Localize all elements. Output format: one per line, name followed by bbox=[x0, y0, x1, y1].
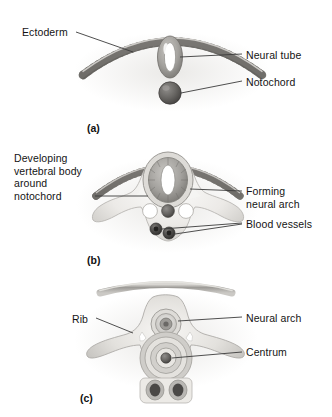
label-forming-neural-arch: Forming neural arch bbox=[246, 185, 300, 210]
panel-caption-c: (c) bbox=[80, 392, 93, 404]
panel-c-artwork bbox=[74, 282, 258, 403]
panel-caption-a: (a) bbox=[87, 122, 100, 134]
label-neural-tube: Neural tube bbox=[246, 49, 301, 62]
label-neural-arch: Neural arch bbox=[246, 312, 301, 325]
panel-b-artwork bbox=[76, 152, 260, 253]
panel-a-artwork bbox=[74, 32, 270, 112]
label-developing-vertebral-body: Developing vertebral body around notocho… bbox=[14, 152, 82, 202]
centrum-structure bbox=[140, 332, 192, 384]
label-centrum: Centrum bbox=[246, 346, 287, 359]
figure-panel-group: Ectoderm Neural tube Notochord Developin… bbox=[0, 0, 332, 417]
notochord-and-foramina bbox=[143, 204, 194, 219]
label-notochord: Notochord bbox=[246, 76, 295, 89]
label-blood-vessels: Blood vessels bbox=[246, 218, 312, 231]
forming-neural-arch-structure bbox=[143, 152, 193, 208]
panel-caption-b: (b) bbox=[87, 254, 100, 266]
label-rib: Rib bbox=[72, 313, 88, 326]
blood-vessels-structure-c bbox=[140, 378, 192, 403]
notochord-structure bbox=[159, 82, 181, 104]
label-ectoderm: Ectoderm bbox=[22, 26, 68, 39]
neural-tube-structure bbox=[158, 36, 183, 78]
